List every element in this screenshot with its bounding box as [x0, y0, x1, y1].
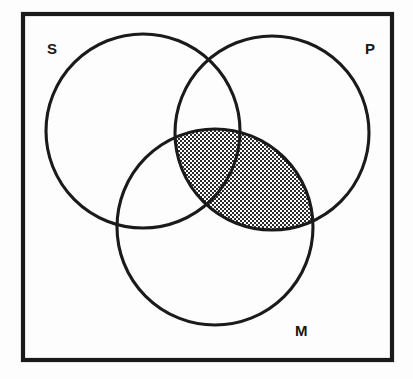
- venn-diagram-canvas: S P M: [0, 0, 413, 379]
- circle-label-p: P: [365, 40, 375, 57]
- circle-label-s: S: [47, 40, 57, 57]
- venn-diagram-svg: S P M: [0, 0, 413, 379]
- circle-label-m: M: [295, 322, 308, 339]
